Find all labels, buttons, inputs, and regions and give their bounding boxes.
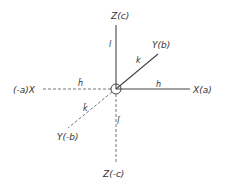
y-negative-label: Y(-b) — [57, 132, 78, 142]
z-positive-label: Z(c) — [110, 11, 129, 21]
index-k-bar: k̄ — [83, 103, 88, 113]
index-h: h — [156, 80, 161, 89]
z-negative-label: Z(-c) — [102, 169, 124, 179]
y-negative-axis — [68, 92, 112, 128]
axes-diagram: Z(c) Z(-c) X(a) (-a)X Y(b) Y(-b) l l̄ h … — [0, 0, 229, 184]
x-negative-label: (-a)X — [13, 85, 36, 95]
index-l-bar: l̄ — [117, 116, 121, 126]
y-positive-label: Y(b) — [152, 40, 170, 50]
index-k: k — [136, 56, 141, 65]
index-h-bar: h̄ — [78, 78, 83, 88]
index-l: l — [109, 40, 112, 49]
x-positive-label: X(a) — [192, 85, 212, 95]
